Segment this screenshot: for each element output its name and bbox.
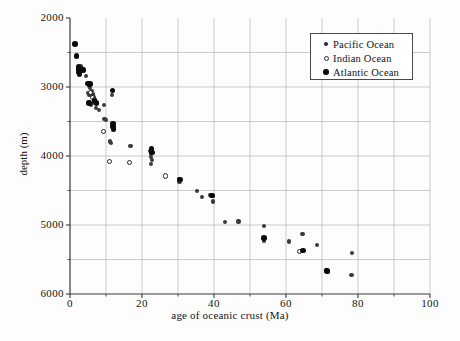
scatter-plot-figure: 20003000400050006000 020406080100 depth … (0, 0, 460, 341)
data-point (87, 81, 93, 87)
x-tick-label: 60 (266, 297, 306, 309)
indian-marker-icon (319, 56, 333, 61)
data-point (236, 219, 240, 223)
atlantic-marker-icon (319, 69, 333, 75)
data-point (177, 177, 183, 183)
data-point (350, 251, 354, 255)
legend-item-indian: Indian Ocean (311, 51, 412, 65)
legend-label-pacific: Pacific Ocean (333, 39, 394, 50)
legend: Pacific Ocean Indian Ocean Atlantic Ocea… (310, 33, 413, 80)
y-tick-label: 2000 (26, 11, 64, 23)
data-point (300, 248, 306, 254)
data-point (163, 173, 168, 178)
y-tick-label: 3000 (26, 80, 64, 92)
x-tick-label: 40 (194, 297, 234, 309)
data-point (94, 100, 100, 106)
data-point (300, 232, 304, 236)
y-tick-label: 5000 (26, 218, 64, 230)
data-point (195, 189, 199, 193)
data-point (72, 41, 78, 47)
data-point (81, 67, 87, 73)
data-point (287, 239, 291, 243)
pacific-marker-icon (319, 42, 333, 46)
data-point (200, 195, 204, 199)
data-point (97, 108, 101, 112)
data-point (74, 53, 80, 59)
x-axis-title: age of oceanic crust (Ma) (0, 309, 460, 321)
legend-label-atlantic: Atlantic Ocean (333, 67, 399, 78)
data-point (211, 199, 215, 203)
legend-label-indian: Indian Ocean (333, 53, 392, 64)
x-tick-label: 80 (338, 297, 378, 309)
legend-item-pacific: Pacific Ocean (311, 37, 412, 51)
data-point (102, 103, 106, 107)
y-axis-title: depth (m) (17, 109, 29, 199)
x-tick-label: 100 (410, 297, 450, 309)
data-point (261, 235, 267, 241)
data-point (109, 141, 113, 145)
data-point (86, 100, 92, 106)
data-point (149, 150, 155, 156)
data-point (324, 268, 330, 274)
data-point (84, 74, 88, 78)
legend-item-atlantic: Atlantic Ocean (311, 65, 412, 79)
x-tick-label: 0 (50, 297, 90, 309)
x-tick-label: 20 (122, 297, 162, 309)
y-tick-label: 4000 (26, 149, 64, 161)
data-point (209, 193, 215, 199)
